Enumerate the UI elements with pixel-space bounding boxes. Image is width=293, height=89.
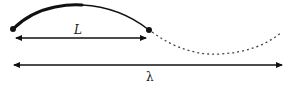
diagram-svg: L λ [0,0,293,89]
solid-arc-thick [13,5,82,29]
right-endpoint-dot [146,27,152,33]
solid-arc-thin [82,5,149,30]
lambda-label: λ [146,70,154,84]
L-label: L [73,23,82,37]
left-endpoint-dot [10,26,16,32]
dashed-wave-curve [152,32,282,54]
wave-diagram: L λ [0,0,293,89]
